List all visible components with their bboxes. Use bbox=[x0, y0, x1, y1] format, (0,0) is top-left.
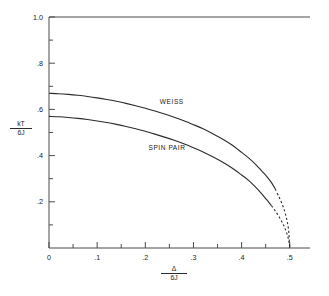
axis-frame bbox=[49, 17, 310, 248]
y-axis-ticks bbox=[49, 17, 55, 225]
y-axis-tick-label: .4 bbox=[37, 151, 43, 160]
y-axis-title-numerator: kT bbox=[10, 121, 32, 128]
x-axis-tick-label: .2 bbox=[142, 253, 148, 262]
x-axis-title-numerator: Δ bbox=[161, 266, 187, 273]
y-axis-tick-label: .2 bbox=[37, 197, 43, 206]
x-axis-title: Δ 6J bbox=[161, 266, 187, 282]
curve-weiss-dashed bbox=[275, 189, 289, 248]
curve-spin-pair-solid bbox=[49, 116, 271, 205]
y-axis-title: kT 6J bbox=[10, 121, 32, 137]
y-axis-tick-labels: 1.0.8.6.4.2 bbox=[33, 13, 43, 207]
figure-panel: 1.0.8.6.4.2 0.1.2.3.4.5 WEISSSPIN PAIR k… bbox=[0, 0, 329, 296]
curve-label-weiss: WEISS bbox=[160, 98, 184, 105]
curve-annotations: WEISSSPIN PAIR bbox=[148, 98, 185, 151]
y-axis-tick-label: .8 bbox=[37, 59, 43, 68]
y-axis-tick-label: .6 bbox=[37, 105, 43, 114]
y-axis-tick-label: 1.0 bbox=[33, 13, 43, 22]
x-axis-tick-labels: 0.1.2.3.4.5 bbox=[47, 253, 293, 262]
x-axis-tick-label: 0 bbox=[47, 253, 51, 262]
curve-label-spin-pair: SPIN PAIR bbox=[148, 144, 185, 151]
data-curves bbox=[49, 93, 290, 248]
y-axis-title-denominator: 6J bbox=[10, 128, 32, 136]
x-axis-title-denominator: 6J bbox=[161, 273, 187, 281]
axis-spines bbox=[49, 17, 310, 248]
x-axis-tick-label: .1 bbox=[94, 253, 100, 262]
plot-area: 1.0.8.6.4.2 0.1.2.3.4.5 WEISSSPIN PAIR bbox=[0, 0, 329, 296]
x-axis-tick-label: .4 bbox=[239, 253, 245, 262]
curve-spin-pair-dashed bbox=[271, 206, 289, 248]
x-axis-tick-label: .5 bbox=[287, 253, 293, 262]
x-axis-tick-label: .3 bbox=[190, 253, 196, 262]
x-axis-ticks bbox=[49, 242, 290, 248]
